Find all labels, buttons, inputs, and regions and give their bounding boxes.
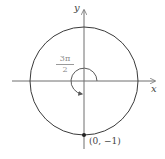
unit-circle-diagram <box>0 0 165 159</box>
y-axis-label: y <box>74 3 80 13</box>
x-axis-label: x <box>151 84 157 94</box>
angle-label: 3π 2 <box>56 55 74 74</box>
point-marker <box>82 133 86 137</box>
point-label: (0, −1) <box>89 136 121 146</box>
angle-numerator: 3π <box>56 55 74 65</box>
angle-denominator: 2 <box>56 65 74 74</box>
